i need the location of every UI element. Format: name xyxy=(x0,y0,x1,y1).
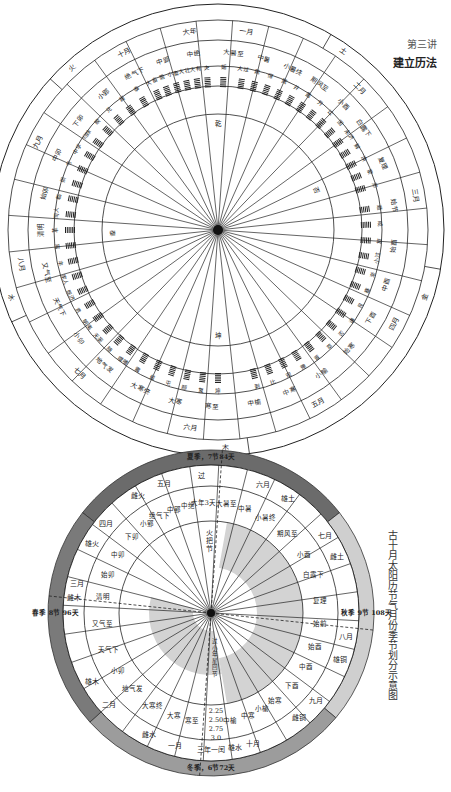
solar-term-label: 期风至 xyxy=(277,530,298,538)
solar-term-label: 大寒 xyxy=(167,711,181,720)
solar-term-label: 寒至 xyxy=(185,716,199,725)
season-label: 夏季，7节84天 xyxy=(187,452,236,461)
month-label: 七月 xyxy=(318,531,332,540)
month-label: 雌水 xyxy=(142,730,156,739)
star-return-festival-label: 节 xyxy=(212,670,218,678)
solar-term-label: 复理 xyxy=(313,596,327,605)
month-label: 二月 xyxy=(102,701,116,709)
month-label: 六月 xyxy=(256,480,270,489)
month-label: 雄火 xyxy=(85,539,99,548)
ten-month-solar-calendar-wheel: 夏季，7节84天秋季 9节 108天冬季，6节72天春季 8节 96天五月雌火六… xyxy=(0,0,451,792)
solar-term-label: 中郢 xyxy=(167,505,181,514)
month-label: 三月 xyxy=(70,580,84,588)
figure-caption: 古十月太阳历节气月份季节划分示意图 xyxy=(386,530,398,700)
torch-festival-label: 节 xyxy=(206,545,213,553)
center-hub xyxy=(207,609,215,617)
solar-term-label: 大暑至 xyxy=(216,499,237,508)
solar-term-label: 地气发 xyxy=(122,684,143,693)
solar-term-label: 中寒 xyxy=(241,711,255,720)
season-label: 春季 8节 96天 xyxy=(31,608,78,617)
month-label: 三年一闰 xyxy=(197,745,225,754)
month-label: 雌木 xyxy=(67,593,81,602)
leap-value: 2.50 xyxy=(209,716,223,724)
solar-term-label: 下卯 xyxy=(125,532,139,541)
month-label: 十月 xyxy=(246,739,260,748)
solar-term-label: 小暑终 xyxy=(255,513,276,522)
solar-term-label: 小郢 xyxy=(140,519,154,528)
solar-term-label: 中酉 xyxy=(299,662,313,671)
season-label: 冬季，6节72天 xyxy=(187,763,236,772)
leap-value: 3.0 xyxy=(211,734,221,742)
month-label: 雌火 xyxy=(131,491,145,500)
month-label: 九月 xyxy=(309,696,323,705)
solar-term-label: 清明 xyxy=(96,592,110,601)
solar-term-label: 中暑 xyxy=(238,504,252,513)
solar-term-label: 中绝 xyxy=(181,501,195,510)
month-label: 雌土 xyxy=(330,552,344,561)
month-label: 雄土 xyxy=(281,494,295,503)
month-label: 一月 xyxy=(168,742,182,750)
solar-term-label: 中榆 xyxy=(223,716,237,725)
torch-festival-label: 把 xyxy=(206,536,213,545)
solar-term-label: 始酉 xyxy=(308,642,322,651)
solar-term-label: 白露下 xyxy=(303,570,324,579)
month-label: 五月 xyxy=(157,480,171,488)
solar-term-label: 始前 xyxy=(313,619,327,628)
solar-term-label: 又气至 xyxy=(92,619,113,628)
torch-festival-label: 火 xyxy=(206,529,213,537)
month-label: 雄铜 xyxy=(333,655,347,664)
solar-term-label: 小酉 xyxy=(297,550,311,559)
solar-term-label: 大寒终 xyxy=(142,701,163,710)
month-label: 四月 xyxy=(99,520,113,528)
month-label: 雌铜 xyxy=(292,713,306,722)
month-label: 雄水 xyxy=(228,743,242,752)
month-label: 过 xyxy=(198,471,205,480)
solar-term-label: 小榆 xyxy=(255,704,269,713)
solar-term-label: 下酉 xyxy=(285,682,299,690)
leap-value: 2.75 xyxy=(209,725,223,733)
leap-value: 2.25 xyxy=(209,707,223,715)
solar-term-label: 天气下 xyxy=(98,645,119,654)
month-label: 雄木 xyxy=(85,677,99,686)
solar-term-label: 小卯 xyxy=(111,666,125,675)
solar-term-label: 始寒 xyxy=(268,696,282,705)
solar-term-label: 中卯 xyxy=(111,550,125,559)
solar-term-label: 始卯 xyxy=(101,570,115,579)
star-return-festival-label: 星 xyxy=(212,658,218,664)
month-label: 八月 xyxy=(339,633,353,641)
